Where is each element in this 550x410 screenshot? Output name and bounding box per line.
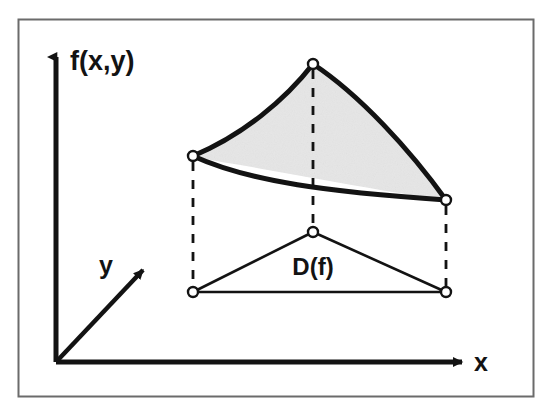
- surface-vertex-top: [308, 59, 318, 69]
- axis-label-y: y: [99, 251, 113, 279]
- domain-vertex-bottom-left: [188, 287, 198, 297]
- domain-vertex-apex: [308, 227, 318, 237]
- axis-label-fxy: f(x,y): [70, 46, 135, 76]
- surface-over-domain-diagram: f(x,y) x y D(f): [0, 0, 550, 410]
- axis-label-x: x: [474, 348, 488, 376]
- surface-vertex-left: [188, 151, 198, 161]
- surface-vertex-right: [441, 195, 451, 205]
- figure-container: f(x,y) x y D(f): [0, 0, 550, 410]
- domain-vertex-bottom-right: [441, 287, 451, 297]
- domain-label: D(f): [292, 253, 333, 280]
